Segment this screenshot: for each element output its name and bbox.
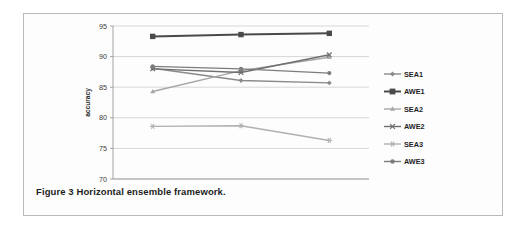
legend-marker bbox=[390, 89, 396, 95]
legend-marker bbox=[390, 141, 396, 146]
legend-label: SEA3 bbox=[404, 140, 423, 149]
screenshot-root: 707580859095 50010002000 accuracy SEA1AW… bbox=[0, 0, 526, 232]
data-point bbox=[238, 32, 243, 37]
figure-panel: 707580859095 50010002000 accuracy SEA1AW… bbox=[23, 13, 503, 216]
legend-label: SEA1 bbox=[404, 70, 423, 79]
data-point bbox=[151, 64, 155, 68]
legend-item-sea1[interactable]: SEA1 bbox=[384, 70, 423, 79]
legend-item-awe3[interactable]: AWE3 bbox=[384, 157, 425, 166]
x-tick-label: 500 bbox=[147, 183, 159, 184]
legend-label: AWE3 bbox=[404, 157, 425, 166]
legend-label: AWE1 bbox=[404, 87, 425, 96]
axis-lines bbox=[110, 26, 369, 179]
legend-item-awe2[interactable]: AWE2 bbox=[384, 122, 425, 131]
chart-plot-area: 707580859095 50010002000 accuracy SEA1AW… bbox=[24, 14, 504, 184]
data-point bbox=[239, 78, 244, 83]
data-point bbox=[327, 31, 332, 36]
legend-label: SEA2 bbox=[404, 105, 423, 114]
series-awe1 bbox=[150, 31, 332, 39]
legend-item-awe1[interactable]: AWE1 bbox=[384, 87, 425, 96]
y-axis-title: accuracy bbox=[84, 88, 92, 117]
y-tick-label: 95 bbox=[99, 22, 107, 31]
legend-item-sea2[interactable]: SEA2 bbox=[384, 105, 423, 114]
figure-caption: Figure 3 Horizontal ensemble framework. bbox=[36, 186, 486, 197]
data-point bbox=[327, 71, 331, 75]
data-point bbox=[150, 124, 156, 129]
series-line bbox=[153, 57, 330, 91]
x-tick-label: 1000 bbox=[233, 183, 249, 184]
data-point bbox=[239, 67, 243, 71]
legend-label: AWE2 bbox=[404, 122, 425, 131]
y-tick-label: 75 bbox=[99, 144, 107, 153]
y-tick-label: 90 bbox=[99, 52, 107, 61]
series-line bbox=[153, 126, 330, 141]
data-point bbox=[327, 81, 332, 86]
legend-marker bbox=[390, 71, 395, 76]
series-sea3 bbox=[150, 123, 332, 143]
y-tick-label: 70 bbox=[99, 175, 107, 184]
chart-legend: SEA1AWE1SEA2AWE2SEA3AWE3 bbox=[384, 70, 425, 167]
y-axis-title-text: accuracy bbox=[84, 88, 92, 117]
gridlines bbox=[113, 26, 369, 179]
y-axis-tick-labels: 707580859095 bbox=[99, 22, 107, 184]
x-tick-label: 2000 bbox=[321, 183, 337, 184]
data-point bbox=[238, 123, 244, 128]
y-tick-label: 85 bbox=[99, 83, 107, 92]
legend-item-sea3[interactable]: SEA3 bbox=[384, 140, 423, 149]
x-axis-tick-labels: 50010002000 bbox=[147, 183, 338, 184]
data-point bbox=[150, 34, 155, 39]
data-series-group bbox=[150, 31, 332, 143]
line-chart: 707580859095 50010002000 accuracy SEA1AW… bbox=[24, 14, 504, 184]
legend-marker bbox=[390, 159, 394, 163]
data-point bbox=[326, 138, 332, 143]
y-tick-label: 80 bbox=[99, 113, 107, 122]
